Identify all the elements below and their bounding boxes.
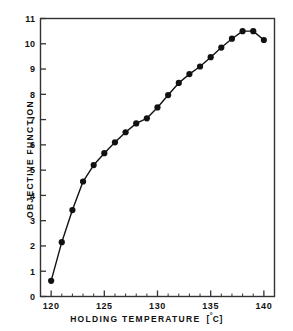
data-point-marker bbox=[80, 178, 86, 184]
y-axis-tick-label: 9 bbox=[30, 64, 35, 74]
data-point-marker bbox=[59, 239, 65, 245]
data-point-marker bbox=[176, 80, 182, 86]
data-point-marker bbox=[229, 36, 235, 42]
y-axis-tick-label: 10 bbox=[25, 39, 36, 49]
data-point-marker bbox=[154, 104, 160, 110]
data-point-marker bbox=[69, 207, 75, 213]
x-axis-tick-label: 130 bbox=[149, 301, 166, 311]
x-axis-tick-label: 125 bbox=[96, 301, 113, 311]
data-point-marker bbox=[250, 28, 256, 34]
x-axis-tick-label: 135 bbox=[202, 301, 219, 311]
x-axis-unit-close: ] bbox=[219, 314, 222, 324]
data-point-marker bbox=[133, 120, 139, 126]
x-axis-title: HOLDING TEMPERATURE [°C] bbox=[0, 312, 293, 324]
x-axis-tick-label: 120 bbox=[43, 301, 60, 311]
data-point-marker bbox=[48, 278, 54, 284]
data-point-marker bbox=[122, 129, 128, 135]
plot-frame bbox=[41, 19, 275, 297]
chart-plot: 01234567891011120125130135140 bbox=[0, 0, 293, 331]
data-point-marker bbox=[165, 92, 171, 98]
x-axis-tick-label: 140 bbox=[255, 301, 272, 311]
x-axis-title-main: HOLDING TEMPERATURE bbox=[70, 314, 200, 324]
data-point-marker bbox=[218, 44, 224, 50]
y-axis-tick-label: 1 bbox=[30, 267, 35, 277]
data-point-marker bbox=[144, 115, 150, 121]
data-point-marker bbox=[208, 54, 214, 60]
data-point-marker bbox=[261, 37, 267, 43]
y-axis-tick-label: 0 bbox=[30, 292, 35, 302]
data-point-marker bbox=[239, 28, 245, 34]
y-axis-tick-label: 11 bbox=[25, 14, 35, 24]
data-point-marker bbox=[197, 63, 203, 69]
figure-container: 01234567891011120125130135140 OBJECTIVE … bbox=[0, 0, 293, 331]
data-point-marker bbox=[186, 71, 192, 77]
data-point-marker bbox=[101, 150, 107, 156]
data-point-marker bbox=[112, 139, 118, 145]
y-axis-title: OBJECTIVE FUNCTION bbox=[25, 74, 35, 244]
data-point-marker bbox=[91, 162, 97, 168]
